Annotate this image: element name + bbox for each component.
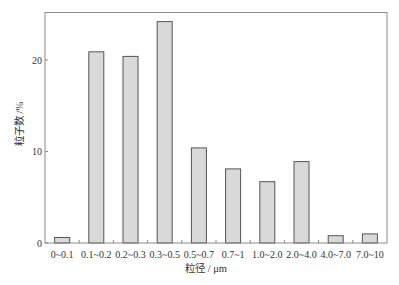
- x-tick-label: 1.0~2.0: [252, 249, 282, 260]
- x-tick-label: 2.0~4.0: [286, 249, 316, 260]
- bar-7.0~10: [362, 234, 377, 243]
- y-tick-label: 20: [32, 55, 42, 66]
- bar-0.5~0.7: [191, 148, 206, 243]
- x-tick-label: 7.0~10: [356, 249, 384, 260]
- bars-group: [55, 22, 378, 243]
- bar-0~0.1: [55, 238, 70, 244]
- bar-2.0~4.0: [294, 162, 309, 243]
- x-axis-title: 粒径 / μm: [185, 262, 227, 274]
- y-tick-label: 0: [37, 238, 42, 249]
- x-tick-label: 4.0~7.0: [320, 249, 350, 260]
- bar-chart: 01020 0~0.10.1~0.20.2~0.30.3~0.50.5~0.70…: [0, 0, 399, 285]
- bar-0.3~0.5: [157, 22, 172, 243]
- x-tick-label: 0.1~0.2: [81, 249, 111, 260]
- x-tick-label: 0.3~0.5: [149, 249, 179, 260]
- y-axis-title: 粒子数 /%: [13, 102, 25, 147]
- bar-1.0~2.0: [260, 182, 275, 243]
- bar-0.2~0.3: [123, 56, 138, 243]
- bar-0.7~1: [226, 169, 241, 243]
- bar-4.0~7.0: [328, 236, 343, 243]
- x-tick-label: 0.7~1: [222, 249, 245, 260]
- x-tick-label: 0.5~0.7: [184, 249, 214, 260]
- y-tick-label: 10: [32, 146, 42, 157]
- y-axis-ticks: 01020: [32, 55, 48, 249]
- x-tick-label: 0~0.1: [51, 249, 74, 260]
- bar-0.1~0.2: [89, 52, 104, 243]
- x-tick-label: 0.2~0.3: [115, 249, 145, 260]
